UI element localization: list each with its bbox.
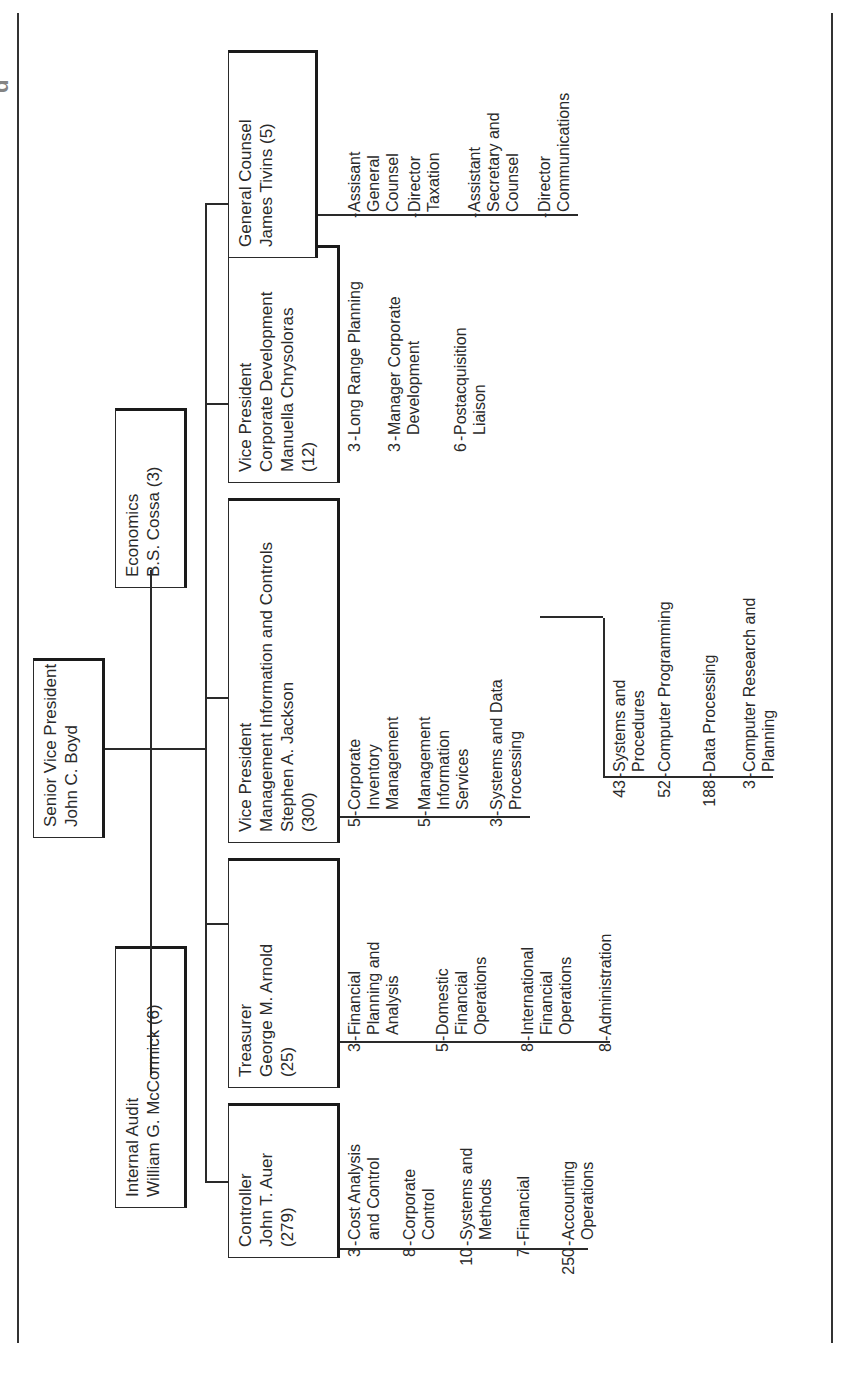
vp-mic-title: Vice President xyxy=(235,511,256,832)
top-rule xyxy=(17,13,19,1343)
unit-dash: - xyxy=(451,436,470,441)
unit-dash: - xyxy=(596,1036,615,1041)
unit-headcount: 3 xyxy=(345,443,364,483)
vp-mic-area: Management Information and Controls xyxy=(256,511,277,832)
unit-headcount: 3 xyxy=(345,1043,364,1083)
sdp-sub-bracket xyxy=(603,618,605,778)
unit-label: Data Processing xyxy=(700,655,719,772)
drop-vp-mic xyxy=(205,698,230,700)
unit-dash: - xyxy=(700,773,719,778)
drop-general-counsel xyxy=(205,204,230,206)
senior-vp-name: John C. Boyd xyxy=(61,671,82,827)
unit-label: Manager CorporateDevelopment xyxy=(385,296,423,435)
unit-headcount: 5 xyxy=(433,1043,452,1083)
unit-dash: - xyxy=(740,773,759,778)
unit-label: Systems andProcedures xyxy=(610,680,648,772)
unit-dash: - xyxy=(345,811,364,816)
internal-audit-name: William G. McCormick (6) xyxy=(143,959,164,1197)
staff-bar xyxy=(150,570,152,1075)
unit-label: Financial xyxy=(514,1176,533,1240)
unit-dash: - xyxy=(345,436,364,441)
treasurer-box: Treasurer George M. Arnold (25) xyxy=(228,858,340,1088)
org-chart-page: ɑ Senior Vice President John C. Boyd Int… xyxy=(0,0,854,1383)
controller-title: Controller xyxy=(235,1116,256,1247)
economics-title: Economics xyxy=(122,421,143,577)
unit-headcount: 6 xyxy=(451,443,470,483)
unit-dash: - xyxy=(514,1241,533,1246)
unit-headcount: 3 xyxy=(487,818,506,858)
unit-headcount: 8 xyxy=(596,1043,615,1083)
unit-label: Long Range Planning xyxy=(345,281,364,435)
unit-headcount: 3 xyxy=(385,443,404,483)
general-counsel-title: General Counsel xyxy=(235,63,256,247)
vp-mic-box: Vice President Management Information an… xyxy=(228,498,340,843)
unit-dash: - xyxy=(433,1036,452,1041)
unit-label: DirectorCommunications xyxy=(535,93,573,212)
treasurer-headcount: (25) xyxy=(277,871,298,1077)
unit-label: ManagementInformationServices xyxy=(415,717,472,810)
unit-label: PostacquisitionLiaison xyxy=(451,327,489,435)
vp-cd-name: Manuella Chrysoloras xyxy=(277,258,298,472)
unit-label: CorporateControl xyxy=(400,1169,438,1240)
svp-connector xyxy=(105,749,205,751)
vp-cd-title: Vice President xyxy=(235,258,256,472)
unit-label: Systems andMethods xyxy=(457,1148,495,1240)
unit-dash: - xyxy=(518,1036,537,1041)
controller-box: Controller John T. Auer (279) xyxy=(228,1103,340,1258)
unit-label: Administration xyxy=(596,934,615,1035)
controller-headcount: (279) xyxy=(277,1116,298,1247)
unit-headcount: 5 xyxy=(415,818,434,858)
controller-name: John T. Auer xyxy=(256,1116,277,1247)
unit-dash: - xyxy=(345,1036,364,1041)
general-counsel-name: James Tivins (5) xyxy=(256,63,277,247)
economics-box: Economics B.S. Cossa (3) xyxy=(115,408,187,588)
unit-label: CorporateInventoryManagement xyxy=(345,717,402,810)
unit-headcount: 3 xyxy=(345,1248,364,1288)
general-counsel-box: General Counsel James Tivins (5) xyxy=(228,50,318,258)
unit-headcount: 7 xyxy=(514,1248,533,1288)
unit-headcount: 250 xyxy=(559,1248,578,1288)
unit-dash: - xyxy=(610,773,629,778)
unit-dash: - xyxy=(415,811,434,816)
figure-caption-fragment: ɑ xyxy=(0,80,14,93)
vp-mic-name: Stephen A. Jackson xyxy=(277,511,298,832)
senior-vp-box: Senior Vice President John C. Boyd xyxy=(33,658,105,838)
drop-treasurer xyxy=(205,924,230,926)
unit-label: InternationalFinancialOperations xyxy=(518,947,575,1035)
unit-dash: - xyxy=(457,1241,476,1246)
drop-vp-cd xyxy=(205,404,230,406)
unit-headcount: 3 xyxy=(740,780,759,820)
unit-label: Cost Analysisand Control xyxy=(345,1144,383,1240)
unit-headcount: 188 xyxy=(700,780,719,820)
unit-label: AssistantSecretary andCounsel xyxy=(465,112,522,212)
unit-dash: - xyxy=(400,1241,419,1246)
unit-dash: - xyxy=(345,213,364,218)
sdp-sub-bracket-end xyxy=(540,617,603,619)
economics-name: B.S. Cossa (3) xyxy=(143,421,164,577)
vp-cd-box: Vice President Corporate Development Man… xyxy=(228,245,340,483)
unit-label: AssisantGeneralCounsel xyxy=(345,152,402,212)
treasurer-units-spine xyxy=(340,1042,610,1044)
vp-cd-area: Corporate Development xyxy=(256,258,277,472)
unit-dash: - xyxy=(487,811,506,816)
unit-dash: - xyxy=(465,213,484,218)
unit-headcount: 52 xyxy=(655,780,674,820)
unit-dash: - xyxy=(405,213,424,218)
unit-label: DomesticFinancialOperations xyxy=(433,957,490,1035)
unit-headcount: 8 xyxy=(400,1248,419,1288)
treasurer-name: George M. Arnold xyxy=(256,871,277,1077)
treasurer-title: Treasurer xyxy=(235,871,256,1077)
unit-headcount: 5 xyxy=(345,818,364,858)
unit-label: DirectorTaxation xyxy=(405,152,443,212)
unit-label: FinancialPlanning andAnalysis xyxy=(345,942,402,1035)
senior-vp-title: Senior Vice President xyxy=(40,671,61,827)
unit-dash: - xyxy=(345,1241,364,1246)
unit-label: AccountingOperations xyxy=(559,1161,597,1240)
unit-headcount: 10 xyxy=(457,1248,476,1288)
unit-label: Systems and DataProcessing xyxy=(487,679,525,810)
unit-dash: - xyxy=(655,773,674,778)
vp-cd-headcount: (12) xyxy=(298,258,319,472)
unit-dash: - xyxy=(535,213,554,218)
drop-controller xyxy=(205,1182,230,1184)
unit-headcount: 43 xyxy=(610,780,629,820)
